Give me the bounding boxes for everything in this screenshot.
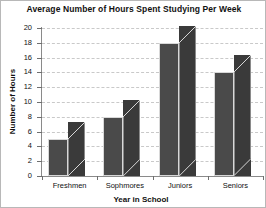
- x-axis-label: Year in School: [21, 195, 261, 204]
- bar-front-face: [48, 139, 68, 176]
- bar-side-face: [179, 26, 196, 176]
- y-tick-label: 4: [8, 141, 32, 150]
- plot-area: [42, 28, 263, 176]
- bar: [214, 72, 234, 176]
- y-tick-label: 18: [8, 38, 32, 47]
- bar-front-face: [159, 43, 179, 176]
- x-tick-mark: [153, 176, 154, 180]
- bar: [103, 117, 123, 176]
- bar-front-face: [214, 72, 234, 176]
- y-tick-label: 8: [8, 112, 32, 121]
- y-tick-label: 16: [8, 53, 32, 62]
- x-tick-mark: [263, 176, 264, 180]
- y-tick-label: 12: [8, 82, 32, 91]
- bar: [48, 139, 68, 176]
- y-tick-mark: [37, 146, 42, 147]
- y-tick-label: 6: [8, 127, 32, 136]
- bar-side-face: [234, 55, 251, 176]
- chart-figure: Average Number of Hours Spent Studying P…: [0, 0, 266, 208]
- bar-front-face: [103, 117, 123, 176]
- y-tick-label: 20: [8, 23, 32, 32]
- y-tick-label: 0: [8, 171, 32, 180]
- y-tick-mark: [37, 72, 42, 73]
- bar-side-face: [68, 122, 85, 176]
- y-tick-mark: [37, 58, 42, 59]
- bar-side-face: [123, 100, 140, 176]
- gridline: [42, 28, 263, 29]
- y-tick-mark: [37, 28, 42, 29]
- x-tick-mark: [97, 176, 98, 180]
- y-tick-mark: [37, 161, 42, 162]
- y-tick-label: 14: [8, 67, 32, 76]
- x-tick-mark: [208, 176, 209, 180]
- bar: [159, 43, 179, 176]
- y-tick-mark: [37, 117, 42, 118]
- y-tick-label: 10: [8, 97, 32, 106]
- y-tick-mark: [37, 132, 42, 133]
- chart-title: Average Number of Hours Spent Studying P…: [1, 4, 266, 14]
- y-tick-mark: [37, 87, 42, 88]
- x-tick-label: Seniors: [208, 181, 263, 190]
- x-tick-mark: [42, 176, 43, 180]
- gridline: [42, 43, 263, 44]
- x-tick-label: Freshmen: [42, 181, 97, 190]
- y-tick-label: 2: [8, 156, 32, 165]
- x-tick-label: Juniors: [153, 181, 208, 190]
- x-tick-label: Sophmores: [97, 181, 152, 190]
- gridline: [42, 58, 263, 59]
- y-tick-mark: [37, 43, 42, 44]
- y-tick-mark: [37, 102, 42, 103]
